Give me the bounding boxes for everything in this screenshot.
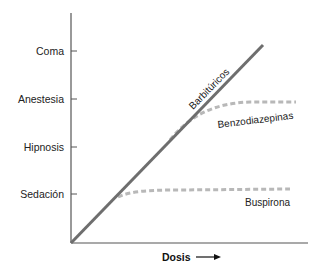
y-tick-label-hipnosis: Hipnosis xyxy=(24,141,64,153)
series-label-buspirona: Buspirona xyxy=(245,197,290,208)
series-buspirona-line xyxy=(118,189,290,197)
series-barbituricos-line xyxy=(71,45,263,243)
series-label-benzodiazepinas: Benzodiazepinas xyxy=(217,110,294,130)
y-tick-label-coma: Coma xyxy=(36,45,64,57)
y-tick-label-sedacion: Sedación xyxy=(20,188,64,200)
x-axis-title: Dosis xyxy=(162,251,191,263)
x-axis-arrow-icon xyxy=(214,254,221,260)
dose-response-chart: Coma Anestesia Hipnosis Sedación Barbitú… xyxy=(0,0,318,270)
y-tick-label-anestesia: Anestesia xyxy=(18,93,64,105)
